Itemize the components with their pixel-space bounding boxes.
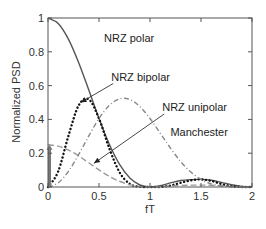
x-tick-label: 1.5 (193, 190, 208, 202)
annotation-nrz-polar: NRZ polar (104, 32, 154, 44)
y-tick-label: 0.4 (29, 113, 44, 125)
arrow-nrz-unipolar (94, 114, 164, 163)
series-nrz-unipolar (48, 145, 252, 187)
x-tick-label: 0.5 (91, 190, 106, 202)
annotation-nrz-unipolar: NRZ unipolar (162, 101, 227, 113)
psd-chart: 00.511.5200.20.40.60.81 NRZ polarNRZ bip… (0, 0, 266, 229)
x-tick-label: 0 (45, 190, 51, 202)
y-axis-label: Normalized PSD (10, 61, 22, 142)
x-tick-label: 2 (249, 190, 255, 202)
x-axis-label: fT (145, 203, 155, 215)
x-tick-label: 1 (147, 190, 153, 202)
arrowhead-icon (94, 158, 100, 164)
y-tick-label: 0.6 (29, 80, 44, 92)
annotations-layer: NRZ polarNRZ bipolarNRZ unipolarManchest… (81, 32, 229, 164)
y-tick-label: 0.2 (29, 147, 44, 159)
annotation-manchester: Manchester (170, 126, 228, 138)
y-tick-label: 1 (38, 12, 44, 24)
y-tick-label: 0 (38, 181, 44, 193)
y-tick-label: 0.8 (29, 46, 44, 58)
annotation-nrz-bipolar: NRZ bipolar (111, 71, 170, 83)
